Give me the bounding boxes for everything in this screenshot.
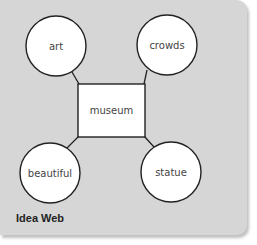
- node-beautiful: beautiful: [20, 143, 80, 203]
- connector-art: [72, 72, 79, 84]
- center-node-label: museum: [90, 105, 134, 116]
- center-node-museum: museum: [78, 84, 145, 137]
- node-art: art: [26, 16, 86, 76]
- idea-web-diagram: museum art crowds beautiful statue: [0, 0, 257, 245]
- node-crowds: crowds: [137, 15, 197, 75]
- node-statue: statue: [141, 142, 201, 202]
- connector-crowds: [144, 70, 147, 84]
- node-label: crowds: [149, 40, 184, 51]
- node-label: beautiful: [28, 168, 72, 179]
- node-label: art: [49, 41, 63, 52]
- node-label: statue: [155, 167, 187, 178]
- diagram-title: Idea Web: [16, 212, 64, 224]
